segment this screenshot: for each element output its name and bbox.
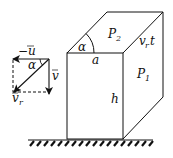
P1-subscript: 1	[145, 74, 150, 83]
physics-diagram: −u α v v r α a P 2 v r t P 1 h	[0, 0, 173, 158]
alpha-box-label: α	[78, 40, 86, 54]
P2-subscript: 2	[115, 34, 121, 43]
ground-hatch	[30, 141, 153, 146]
vrt-t-label: t	[150, 34, 155, 48]
alpha-vector-label: α	[28, 58, 36, 72]
alpha-arc-vector	[40, 59, 43, 65]
v-label: v	[52, 69, 59, 83]
h-label: h	[111, 92, 119, 106]
v-r-subscript: r	[19, 98, 24, 107]
alpha-arc-box	[86, 34, 94, 54]
bottom-right-edge	[123, 97, 163, 139]
top-left-edge	[67, 12, 107, 53]
vector-diagram: −u α v v r	[12, 44, 59, 107]
a-label: a	[92, 53, 99, 67]
